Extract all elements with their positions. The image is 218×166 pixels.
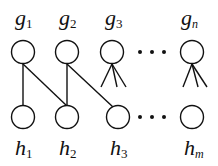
node-h2 (56, 106, 79, 129)
node-gn (181, 41, 204, 64)
label-g2: g2 (59, 5, 77, 31)
bottom-nodes (12, 106, 204, 129)
label-g3: g3 (105, 5, 123, 31)
node-g3 (101, 41, 124, 64)
label-h1: h1 (15, 135, 33, 161)
ellipsis-bottom (138, 115, 166, 119)
bipartite-graph-diagram: g1 g2 g3 gn h1 h2 h3 hm (0, 0, 218, 166)
label-h3: h3 (110, 135, 128, 161)
label-hm: hm (184, 135, 204, 161)
top-nodes (12, 41, 204, 64)
label-h2: h2 (59, 135, 77, 161)
label-g1: g1 (15, 5, 33, 31)
fan-edge-gn-c (192, 64, 207, 87)
label-gn: gn (181, 5, 198, 31)
node-h1 (12, 106, 35, 129)
edges (23, 64, 207, 107)
edge-g1-h2 (23, 64, 67, 106)
node-g2 (56, 41, 79, 64)
fan-edge-gn-a (183, 64, 192, 87)
node-h3 (107, 106, 130, 129)
ellipsis-top (138, 50, 166, 54)
node-g1 (12, 41, 35, 64)
node-hm (181, 106, 204, 129)
fan-edge-g3-a (101, 64, 112, 87)
edge-g2-h3 (67, 64, 113, 107)
